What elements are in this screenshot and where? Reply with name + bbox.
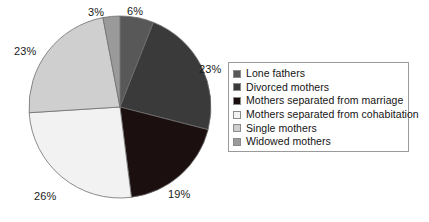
legend-swatch-icon [233, 70, 241, 78]
slice-label-divorced-mothers: 23% [199, 63, 221, 75]
legend-item-label: Mothers separated from marriage [246, 95, 403, 106]
legend-item-label: Divorced mothers [246, 82, 329, 93]
chart-legend: Lone fathers Divorced mothers Mothers se… [228, 62, 409, 152]
slice-label-lone-fathers: 6% [127, 5, 143, 17]
legend-swatch-icon [233, 124, 241, 132]
slice-label-single-mothers: 23% [14, 45, 36, 57]
legend-item: Single mothers [233, 121, 405, 135]
legend-item: Lone fathers [233, 67, 405, 81]
pie-svg [28, 15, 212, 199]
pie-slice [29, 107, 131, 198]
legend-swatch-icon [233, 83, 241, 91]
legend-item-label: Widowed mothers [246, 136, 331, 147]
legend-item-label: Single mothers [246, 123, 317, 134]
legend-item: Mothers separated from marriage [233, 94, 405, 108]
legend-item: Divorced mothers [233, 81, 405, 95]
legend-item: Mothers separated from cohabitation [233, 108, 405, 122]
pie-chart-figure: 3% 6% 23% 19% 26% 23% Lone fathers Divor… [0, 0, 429, 222]
legend-item-label: Lone fathers [246, 68, 305, 79]
legend-item: Widowed mothers [233, 135, 405, 149]
slice-label-separated-cohabitation: 26% [34, 190, 56, 202]
slice-label-widowed-mothers: 3% [88, 6, 104, 18]
legend-swatch-icon [233, 138, 241, 146]
legend-swatch-icon [233, 97, 241, 105]
pie-slices [29, 16, 211, 198]
legend-swatch-icon [233, 111, 241, 119]
legend-item-label: Mothers separated from cohabitation [246, 109, 419, 120]
pie-chart-graphic [28, 15, 212, 199]
slice-label-separated-marriage: 19% [168, 188, 190, 200]
